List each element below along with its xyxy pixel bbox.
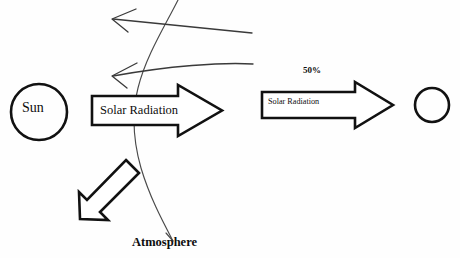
diagram-canvas: Sun Solar Radiation 50% Solar Radiation … <box>0 0 460 258</box>
upper-reflected-ray-line <box>113 19 252 33</box>
second-arrow-label: Solar Radiation <box>268 98 319 106</box>
earth-circle <box>415 88 449 122</box>
main-arrow-label: Solar Radiation <box>100 104 178 117</box>
lower-reflected-ray-line <box>113 64 253 77</box>
atmosphere-label: Atmosphere <box>132 236 197 249</box>
sun-label: Sun <box>22 101 44 115</box>
diagram-vector-layer <box>0 0 460 258</box>
reflected-radiation-arrow <box>79 160 139 220</box>
percent-label: 50% <box>303 66 321 75</box>
